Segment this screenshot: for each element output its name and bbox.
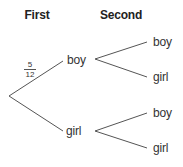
fraction-numerator: 5 [24, 60, 36, 70]
probability-fraction: 5 12 [24, 60, 36, 79]
branch-root-to-girl [9, 96, 63, 131]
branch-boy-to-girl [95, 59, 147, 77]
branch-girl-to-girl [95, 131, 147, 148]
node-second-girl-girl: girl [153, 142, 168, 154]
branch-root-to-boy [9, 61, 63, 96]
column-header-second: Second [100, 8, 142, 22]
node-second-girl-boy: boy [153, 107, 172, 119]
fraction-denominator: 12 [24, 70, 36, 79]
branch-boy-to-boy [95, 42, 147, 59]
node-second-boy-boy: boy [153, 36, 172, 48]
node-second-boy-girl: girl [153, 71, 168, 83]
node-first-girl: girl [66, 125, 81, 137]
branch-girl-to-boy [95, 113, 147, 131]
column-header-first: First [24, 8, 49, 22]
probability-tree-diagram: First Second 5 12 boy girl boy girl boy … [0, 0, 183, 167]
node-first-boy: boy [67, 54, 86, 66]
